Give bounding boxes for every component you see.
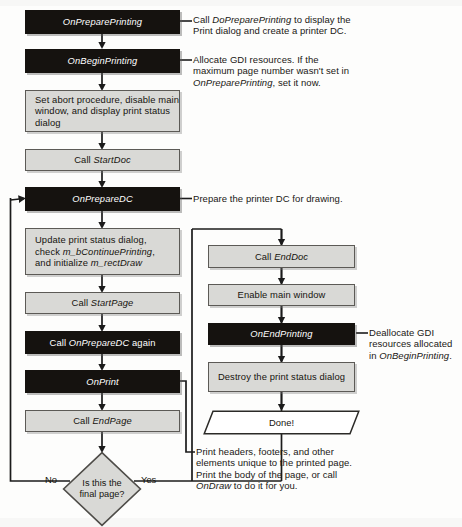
node-call-endpage[interactable]: Call EndPage (25, 410, 180, 432)
node-label: Enable main window (209, 289, 354, 301)
node-label: OnEndPrinting (209, 328, 354, 340)
node-call-startpage[interactable]: Call StartPage (25, 292, 180, 314)
node-on-end-printing[interactable]: OnEndPrinting (208, 323, 355, 345)
decision-label: Is this thefinal page? (62, 451, 142, 527)
node-label: OnPrepareDC (26, 193, 179, 205)
node-done-terminator[interactable]: Done! (203, 410, 360, 435)
node-call-startdoc[interactable]: Call StartDoc (25, 149, 180, 171)
node-label: Call StartDoc (26, 154, 179, 166)
node-enable-main-window[interactable]: Enable main window (208, 284, 355, 306)
node-on-print[interactable]: OnPrint (25, 370, 180, 393)
node-label: Call EndDoc (209, 251, 354, 263)
annotation-on-print: Print headers, footers, and other elemen… (196, 446, 458, 491)
flowchart-canvas: OnPreparePrinting OnBeginPrinting Set ab… (0, 0, 462, 527)
node-on-begin-printing[interactable]: OnBeginPrinting (25, 49, 180, 73)
node-label: Set abort procedure, disable main window… (35, 94, 179, 129)
node-label: Call OnPrepareDC again (26, 337, 179, 349)
node-label: Call StartPage (26, 297, 179, 309)
node-on-prepare-printing[interactable]: OnPreparePrinting (25, 10, 180, 34)
node-label: Update print status dialog,check m_bCont… (35, 234, 179, 269)
node-on-prepare-dc[interactable]: OnPrepareDC (25, 187, 180, 211)
node-decision-final-page[interactable]: Is this thefinal page? (62, 451, 142, 527)
node-update-print-status[interactable]: Update print status dialog,check m_bCont… (25, 228, 180, 275)
annotation-begin-printing: Allocate GDI resources. If the maximum p… (193, 54, 458, 88)
node-destroy-print-status-dialog[interactable]: Destroy the print status dialog (208, 362, 355, 392)
annotation-prepare-dc: Prepare the printer DC for drawing. (193, 193, 458, 204)
node-call-enddoc[interactable]: Call EndDoc (208, 245, 355, 268)
node-label: OnBeginPrinting (26, 55, 179, 67)
scan-artifact (0, 0, 462, 6)
node-label: OnPreparePrinting (26, 16, 179, 28)
node-set-abort-procedure[interactable]: Set abort procedure, disable main window… (25, 90, 180, 132)
branch-label-no: No (45, 474, 57, 485)
node-label: Call EndPage (26, 415, 179, 427)
terminator-label: Done! (203, 410, 360, 435)
annotation-prepare-printing: Call DoPreparePrinting to display the Pr… (193, 14, 458, 37)
node-label: Destroy the print status dialog (209, 371, 354, 383)
node-call-on-prepare-dc-again[interactable]: Call OnPrepareDC again (25, 331, 180, 354)
branch-label-yes: Yes (141, 474, 156, 485)
annotation-end-printing: Deallocate GDI resources allocated in On… (369, 327, 462, 361)
node-label: OnPrint (26, 376, 179, 388)
